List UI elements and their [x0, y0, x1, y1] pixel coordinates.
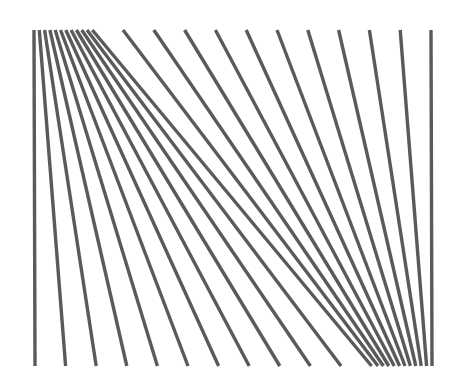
pattern-line: [431, 30, 432, 366]
pattern-line: [92, 30, 371, 366]
line-pattern-figure: [0, 0, 470, 389]
line-pattern-svg: [0, 0, 470, 389]
pattern-line: [34, 30, 35, 366]
